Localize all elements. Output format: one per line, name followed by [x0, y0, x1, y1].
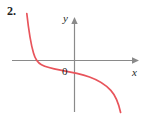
function-curve [27, 14, 121, 113]
x-axis-arrow-icon [132, 57, 139, 64]
graph-plot: y x 0 [0, 0, 151, 115]
origin-label: 0 [62, 65, 68, 77]
y-axis-arrow-icon [71, 17, 77, 24]
math-figure: 2. y x 0 [0, 0, 151, 115]
y-axis-label: y [62, 12, 68, 24]
x-axis-label: x [131, 66, 137, 78]
